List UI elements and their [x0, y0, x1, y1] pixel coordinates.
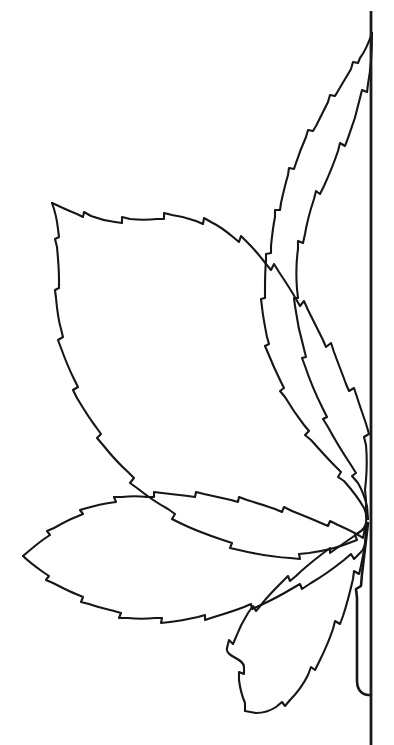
- figure-background: [0, 0, 394, 745]
- botanical-figure: Palmately Compound Leaf Outline horse-ch…: [0, 0, 394, 745]
- leaf-drawing-canvas: [0, 0, 394, 745]
